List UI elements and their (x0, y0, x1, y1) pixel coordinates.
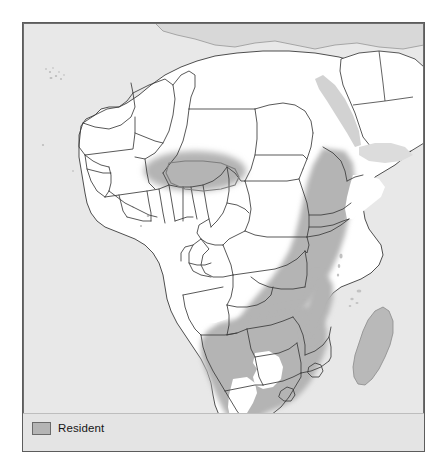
range-lake-chad-patch (144, 151, 246, 191)
legend-item-label: Resident (58, 422, 104, 435)
figure-root: Resident (0, 0, 448, 476)
map-frame: Resident (22, 22, 425, 452)
map-legend: Resident (23, 413, 424, 451)
africa-distribution-map (23, 23, 424, 451)
legend-item-resident: Resident (32, 422, 104, 435)
resident-swatch-icon (32, 422, 51, 435)
